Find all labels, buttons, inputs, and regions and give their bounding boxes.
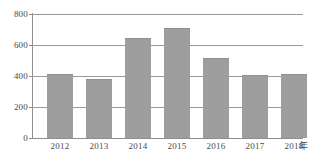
x-axis-tick-label-2016: 2016 — [196, 142, 236, 151]
bar-2013 — [86, 79, 112, 138]
gridline-baseline-0 — [32, 138, 303, 139]
x-axis-tick-label-2017: 2017 — [235, 142, 275, 151]
y-axis-tick-label-800: 800 — [2, 10, 28, 19]
x-axis-tick-label-2018: 2018 — [274, 142, 314, 151]
bar-2017 — [242, 75, 268, 138]
x-axis-tick-label-2012: 2012 — [40, 142, 80, 151]
x-axis-unit-label: 年 — [299, 142, 308, 151]
bar-chart: 800 600 400 200 0 2012 2013 2014 2015 20… — [0, 0, 314, 163]
gridline-800 — [32, 14, 303, 15]
x-axis-tick-label-2015: 2015 — [157, 142, 197, 151]
bar-2016 — [203, 58, 229, 138]
x-axis-tick-label-2014: 2014 — [118, 142, 158, 151]
y-axis-tick-label-600: 600 — [2, 41, 28, 50]
bar-2018 — [281, 74, 307, 138]
y-axis-tick-label-200: 200 — [2, 103, 28, 112]
plot-area — [32, 14, 303, 138]
x-axis-labels: 2012 2013 2014 2015 2016 2017 2018 — [32, 142, 303, 158]
y-axis-tick-label-0: 0 — [2, 134, 28, 143]
y-axis-tick-label-400: 400 — [2, 72, 28, 81]
bar-2014 — [125, 38, 151, 138]
x-axis-tick-label-2013: 2013 — [79, 142, 119, 151]
bar-2015 — [164, 28, 190, 139]
bar-2012 — [47, 74, 73, 138]
y-axis-labels: 800 600 400 200 0 — [0, 0, 28, 163]
